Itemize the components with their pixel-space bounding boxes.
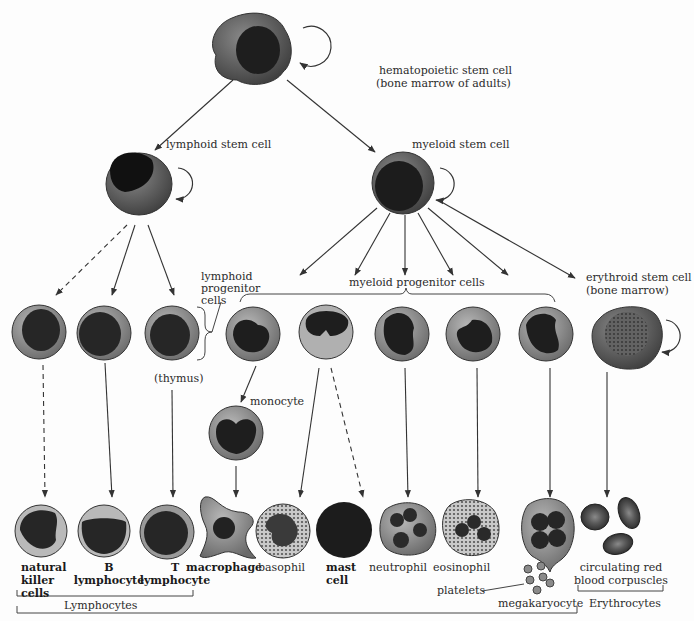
self-renew-arrow <box>300 26 331 66</box>
natural-killer-cell <box>15 505 67 557</box>
myeloid-progenitor-monocyte <box>226 307 280 361</box>
monocyte-cell <box>209 406 263 460</box>
mast-cell <box>316 502 372 558</box>
nk-label-2: killer <box>21 574 54 587</box>
rbc-label-2: blood corpuscles <box>571 574 671 587</box>
hematopoiesis-diagram: hematopoietic stem cell (bone marrow of … <box>0 0 694 621</box>
hsc-label-2: (bone marrow of adults) <box>376 77 511 90</box>
hsc-label-1: hematopoietic stem cell <box>379 64 512 77</box>
megakaryocyte-label: megakaryocyte <box>498 597 583 610</box>
thymus-label: (thymus) <box>154 372 203 385</box>
hematopoietic-stem-cell <box>213 13 292 84</box>
macrophage-label: macrophage <box>186 561 262 574</box>
lymphocytes-group-label: Lymphocytes <box>64 599 137 612</box>
myeloid-stem-cell <box>372 152 434 214</box>
neutrophil-cell <box>380 503 436 555</box>
erythroid-label-1: erythroid stem cell <box>586 271 692 284</box>
erythroid-stem-cell <box>592 307 662 369</box>
eosinophil-cell <box>443 500 500 556</box>
myeloid-progenitor-megakaryocyte <box>519 307 573 361</box>
megakaryocyte-cell <box>522 499 575 572</box>
t-label-2: lymphocyte <box>130 574 220 587</box>
lymphoid-progenitor-t <box>145 306 199 360</box>
eosinophil-label: eosinophil <box>433 561 490 574</box>
basophil-cell <box>256 504 310 558</box>
basophil-label: basophil <box>258 561 305 574</box>
myeloid-progenitor-neutrophil <box>375 307 429 361</box>
macrophage-cell <box>200 497 256 558</box>
monocyte-label: monocyte <box>250 395 304 408</box>
lymphoid-progenitor-nk <box>12 305 66 359</box>
lymphoid-prog-label-3: cells <box>201 294 226 307</box>
myeloid-stem-label: myeloid stem cell <box>412 138 510 151</box>
neutrophil-label: neutrophil <box>369 561 427 574</box>
rbc-label-1: circulating red <box>571 561 671 574</box>
nk-label-3: cells <box>21 587 49 600</box>
myeloid-progenitor-basophil <box>299 305 353 359</box>
diagram-graphics <box>0 0 694 621</box>
myeloid-prog-label: myeloid progenitor cells <box>349 276 485 289</box>
erythrocytes-group-label: Erythrocytes <box>589 597 661 610</box>
t-lymphocyte-cell <box>140 505 194 559</box>
lymphoid-stem-cell <box>106 153 172 215</box>
b-lymphocyte-cell <box>78 505 130 557</box>
mast-label-2: cell <box>326 574 348 587</box>
lymphoid-stem-label: lymphoid stem cell <box>166 138 271 151</box>
lymphoid-progenitor-b <box>77 306 131 360</box>
myeloid-progenitor-eosinophil <box>446 307 500 361</box>
red-blood-cells <box>581 495 644 558</box>
platelets-label: platelets <box>437 584 485 597</box>
erythroid-label-2: (bone marrow) <box>586 284 669 297</box>
mast-label-1: mast <box>326 561 356 574</box>
nk-label-1: natural <box>21 561 66 574</box>
